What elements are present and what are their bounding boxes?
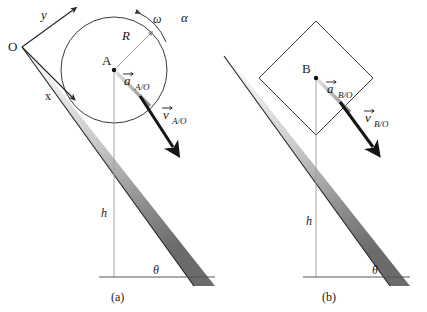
label-radius-r: R [121,28,130,43]
label-center-b: B [302,61,311,76]
label-angle-a: θ [153,263,159,277]
label-axis-y: y [39,7,47,22]
radius-line [114,34,150,70]
label-accel-a-symbol: a [124,73,131,88]
label-center-a: A [102,53,112,68]
coordinate-axes-a [22,10,73,97]
incline-ramp-a [22,47,215,286]
point-a-dot [112,68,116,72]
label-accel-b-subscript: B/O [338,90,353,100]
panel-b: B h θ a B/O v B/O (b) [224,21,410,304]
y-axis-line [22,10,73,47]
label-accel-a: a A/O [123,72,150,92]
caption-panel-b: (b) [322,290,336,304]
label-height-b: h [306,214,312,228]
label-vel-b: v B/O [364,109,389,129]
label-accel-b-symbol: a [327,81,334,96]
label-accel-a-subscript: A/O [134,82,150,92]
panel-a: O y x A R ω α h θ a A/O v A/O (a) [8,7,215,304]
label-accel-b: a B/O [326,80,353,100]
caption-panel-a: (a) [111,290,124,304]
label-angle-b: θ [372,263,378,277]
label-omega: ω [153,12,161,26]
label-vel-b-subscript: B/O [374,119,389,129]
label-alpha: α [181,10,189,25]
label-vel-a-subscript: A/O [171,116,187,126]
omega-arc-arrow [137,12,166,42]
physics-figure: O y x A R ω α h θ a A/O v A/O (a) [0,0,427,312]
label-vel-a: v A/O [162,106,187,126]
label-axis-x: x [45,89,51,103]
label-origin-o: O [8,39,17,54]
figure-canvas: O y x A R ω α h θ a A/O v A/O (a) [0,0,427,312]
point-b-dot [314,76,318,80]
label-vel-b-symbol: v [365,110,371,125]
label-vel-a-symbol: v [163,107,169,122]
label-height-a: h [101,206,107,220]
incline-ramp-b [224,56,410,286]
